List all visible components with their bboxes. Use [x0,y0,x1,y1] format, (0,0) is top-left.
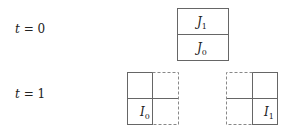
j1-label: J1 [194,15,207,31]
left-grid: I0 [128,73,179,125]
top-stack: J1 J0 [178,9,229,61]
right-grid: I1 [227,73,278,125]
i1-label: I1 [263,105,274,121]
j0-label: J0 [194,41,207,57]
i0-label: I0 [139,105,150,121]
diagram-canvas: J1 J0 I0 I1 [0,0,293,128]
